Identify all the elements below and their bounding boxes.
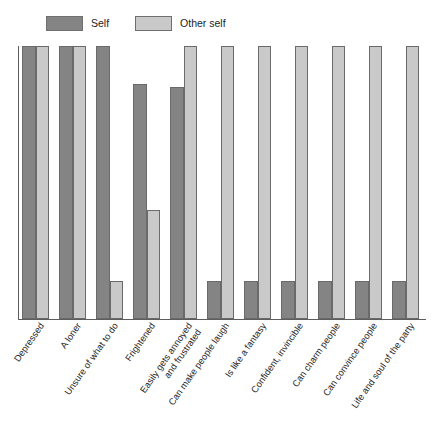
bar-self [170, 87, 183, 319]
bar-group [93, 46, 130, 319]
x-axis-line [18, 319, 426, 320]
bar-self [392, 281, 405, 319]
bar-group [56, 46, 93, 319]
x-tick-label: Depressed [12, 321, 46, 364]
bar-self [318, 281, 331, 319]
bar-self [355, 281, 368, 319]
bar-other-self [36, 46, 49, 319]
bar-group [19, 46, 56, 319]
bar-group [204, 46, 241, 319]
bar-group [389, 46, 426, 319]
bar-group [352, 46, 389, 319]
x-tick-label-line: Life and soul of the party [350, 321, 417, 410]
bar-other-self [295, 46, 308, 319]
bar-other-self [369, 46, 382, 319]
bar-self [281, 281, 294, 319]
x-tick-label-line: Frightened [124, 321, 158, 363]
bar-group [278, 46, 315, 319]
bar-other-self [406, 46, 419, 319]
bar-other-self [110, 281, 123, 319]
chart-legend: Self Other self [46, 14, 226, 32]
bar-other-self [332, 46, 345, 319]
legend-label-other-self: Other self [180, 18, 226, 29]
bar-self [133, 84, 146, 319]
bar-other-self [147, 210, 160, 319]
x-tick-label: A loner [59, 321, 84, 351]
legend-swatch-self [46, 16, 83, 31]
x-axis-tick-labels: DepressedA lonerUnsure of what to doFrig… [18, 321, 426, 439]
legend-entry-self: Self [46, 16, 109, 31]
x-tick-label-line: Depressed [12, 321, 46, 364]
bar-group [130, 46, 167, 319]
bar-other-self [184, 46, 197, 319]
bar-groups [19, 46, 426, 319]
bar-self [207, 281, 220, 319]
x-tick-label-line: A loner [59, 321, 84, 351]
legend-entry-other-self: Other self [135, 16, 226, 31]
bar-self [244, 281, 257, 319]
bar-self [96, 46, 109, 319]
bar-self [22, 46, 35, 319]
bar-group [167, 46, 204, 319]
plot-area [18, 46, 426, 320]
bar-self [59, 46, 72, 319]
bar-other-self [73, 46, 86, 319]
bar-other-self [221, 46, 234, 319]
legend-label-self: Self [91, 18, 109, 29]
x-tick-label: Frightened [124, 321, 158, 363]
bar-other-self [258, 46, 271, 319]
legend-swatch-other-self [135, 16, 172, 31]
bar-chart: Self Other self DepressedA lonerUnsure o… [0, 0, 445, 441]
bar-group [315, 46, 352, 319]
bar-group [241, 46, 278, 319]
x-tick-label: Life and soul of the party [350, 321, 417, 410]
